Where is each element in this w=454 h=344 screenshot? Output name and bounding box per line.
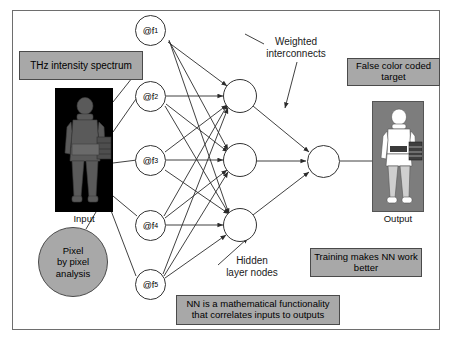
pixel-by-pixel-analysis-circle: Pixel by pixel analysis xyxy=(38,227,108,297)
output-figure-graphic xyxy=(373,102,425,213)
input-node-f2-label: @f xyxy=(143,92,155,102)
callout-thz-label: THz intensity spectrum xyxy=(30,60,132,72)
input-node-f5-label: @f xyxy=(143,280,155,290)
edges-from-f5 xyxy=(163,108,228,278)
input-node-f4-label: @f xyxy=(143,221,155,231)
input-node-f3-label: @f xyxy=(143,156,155,166)
callout-false-color-label: False color coded target xyxy=(356,61,431,83)
label-weighted-interconnects: Weighted interconnects xyxy=(258,36,334,60)
input-node-f1-label: @f xyxy=(143,26,155,36)
input-figure-graphic xyxy=(56,89,114,213)
callout-thz-intensity-spectrum: THz intensity spectrum xyxy=(19,51,143,80)
input-node-f4-subscript: 4 xyxy=(154,222,158,229)
hidden-node-2[interactable] xyxy=(223,143,257,177)
callout-training-label: Training makes NN work better xyxy=(314,252,418,274)
weighted-pointer xyxy=(285,62,297,108)
callout-training-makes-nn-work-better: Training makes NN work better xyxy=(310,248,422,277)
hidden-node-3[interactable] xyxy=(223,208,257,242)
diagram-canvas: THz intensity spectrum False color coded… xyxy=(0,0,454,344)
hidden-node-1[interactable] xyxy=(223,79,257,113)
output-node-1[interactable] xyxy=(307,145,340,178)
input-node-f2-subscript: 2 xyxy=(154,93,158,100)
input-node-f5-subscript: 5 xyxy=(154,281,158,288)
input-node-f2[interactable]: @f2 xyxy=(135,81,166,112)
input-node-f3[interactable]: @f3 xyxy=(135,145,166,176)
edges-to-output xyxy=(253,106,309,215)
callout-nn-definition-label: NN is a mathematical functionality that … xyxy=(186,299,329,321)
input-node-f4[interactable]: @f4 xyxy=(135,210,166,241)
edges-from-f2 xyxy=(165,96,229,214)
input-node-f5[interactable]: @f5 xyxy=(135,269,166,300)
pixel-analysis-label: Pixel by pixel analysis xyxy=(56,245,90,279)
input-node-f1-subscript: 1 xyxy=(154,27,158,34)
input-caption: Input xyxy=(55,213,113,224)
callout-false-color-coded-target: False color coded target xyxy=(347,58,440,86)
callout-nn-definition: NN is a mathematical functionality that … xyxy=(176,295,340,325)
input-thz-image xyxy=(55,88,113,212)
input-node-f3-subscript: 3 xyxy=(154,157,158,164)
output-false-color-image xyxy=(372,101,424,212)
input-node-f1[interactable]: @f1 xyxy=(135,15,166,46)
output-caption: Output xyxy=(369,213,427,224)
label-hidden-layer-nodes: Hidden layer nodes xyxy=(216,255,288,279)
